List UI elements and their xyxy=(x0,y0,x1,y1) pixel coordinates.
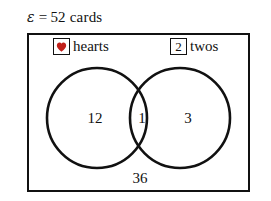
two-rank-icon: 2 xyxy=(170,38,187,55)
two-rank-icon-text: 2 xyxy=(175,40,182,53)
venn-diagram-figure: ε=52 cards hearts 2 twos 12 1 3 36 xyxy=(0,0,271,201)
universe-caption: ε=52 cards xyxy=(27,7,102,27)
region-count-twos-only: 3 xyxy=(184,110,192,126)
region-count-intersection: 1 xyxy=(138,110,146,126)
universe-description: 52 cards xyxy=(50,9,102,25)
region-count-outside: 36 xyxy=(133,170,148,186)
equals-sign: = xyxy=(39,9,48,25)
epsilon-symbol: ε xyxy=(27,9,35,25)
heart-icon xyxy=(53,38,70,55)
set-label-twos-text: twos xyxy=(190,38,218,55)
set-label-hearts: hearts xyxy=(53,38,109,55)
region-count-hearts-only: 12 xyxy=(88,110,103,126)
set-label-hearts-text: hearts xyxy=(73,38,109,55)
set-label-twos: 2 twos xyxy=(170,38,218,55)
